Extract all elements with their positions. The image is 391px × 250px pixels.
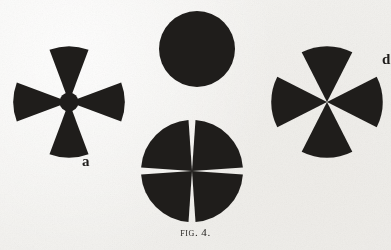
figure-d: d: [152, 6, 242, 92]
solid-disc: [159, 11, 235, 87]
sector-core: [60, 93, 79, 112]
figure-label-d: d: [382, 52, 390, 67]
figure-d-artwork: [152, 6, 242, 92]
sector-upper-right: [192, 120, 243, 171]
figure-a: a: [10, 44, 128, 160]
caption-prefix: Fig.: [180, 226, 198, 238]
sector-lower-left: [141, 171, 192, 222]
figure-caption: Fig.4.: [0, 226, 391, 238]
figure-b-artwork: [268, 44, 386, 160]
figure-b: b: [268, 44, 386, 160]
figure-plate: a b c: [0, 0, 391, 250]
figure-c: c: [140, 116, 244, 226]
figure-c-artwork: [140, 116, 244, 226]
caption-number: 4.: [201, 226, 210, 238]
figure-label-a: a: [82, 154, 90, 169]
sector-lower-right: [192, 171, 243, 222]
figure-a-artwork: [10, 44, 128, 160]
sector-upper-left: [141, 120, 192, 171]
